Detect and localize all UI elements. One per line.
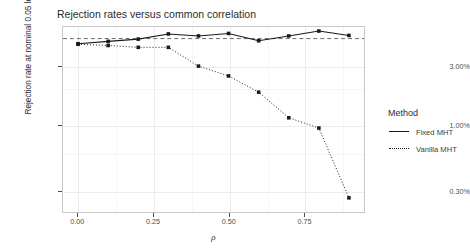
legend-title: Method: [388, 108, 457, 118]
data-point-marker: [287, 116, 291, 120]
x-tick-label: 0.00: [57, 217, 97, 226]
legend: Method Fixed MHT Vanilla MHT: [388, 108, 457, 159]
data-point-marker: [347, 34, 351, 38]
data-point-marker: [106, 44, 110, 48]
data-point-marker: [167, 32, 171, 36]
data-point-marker: [257, 39, 261, 43]
legend-item-fixed-mht[interactable]: Fixed MHT: [388, 125, 457, 139]
legend-label-fixed-mht: Fixed MHT: [416, 128, 453, 137]
data-point-marker: [317, 29, 321, 33]
series-line-fixed-mht: [78, 31, 349, 44]
y-tick-label: 0.30%: [416, 187, 470, 196]
data-point-marker: [197, 64, 201, 68]
data-point-marker: [227, 74, 231, 78]
chart-figure: Rejection rates versus common correlatio…: [0, 0, 470, 252]
chart-title: Rejection rates versus common correlatio…: [57, 8, 256, 20]
x-tick-label: 0.75: [284, 217, 324, 226]
data-point-marker: [347, 196, 351, 200]
x-tick-label: 0.25: [133, 217, 173, 226]
data-point-marker: [167, 46, 171, 50]
data-point-marker: [287, 34, 291, 38]
data-point-marker: [197, 34, 201, 38]
data-point-marker: [136, 46, 140, 50]
data-point-marker: [257, 90, 261, 94]
y-tick-label: 3.00%: [416, 62, 470, 71]
data-point-marker: [76, 42, 80, 46]
data-point-marker: [317, 126, 321, 130]
plot-area: [63, 27, 364, 212]
x-axis-title: ρ: [62, 232, 365, 242]
legend-key-solid-line-icon: [388, 126, 410, 138]
data-point-marker: [136, 37, 140, 41]
legend-label-vanilla-mht: Vanilla MHT: [416, 145, 457, 154]
data-point-marker: [106, 40, 110, 44]
data-point-marker: [227, 32, 231, 36]
x-tick-label: 0.50: [209, 217, 249, 226]
series-line-vanilla-mht: [78, 44, 349, 198]
legend-item-vanilla-mht[interactable]: Vanilla MHT: [388, 142, 457, 156]
y-axis-title: Rejection rate at nominal 0.05 level: [24, 0, 33, 141]
legend-key-dotted-line-icon: [388, 143, 410, 155]
plot-panel: [62, 26, 365, 213]
